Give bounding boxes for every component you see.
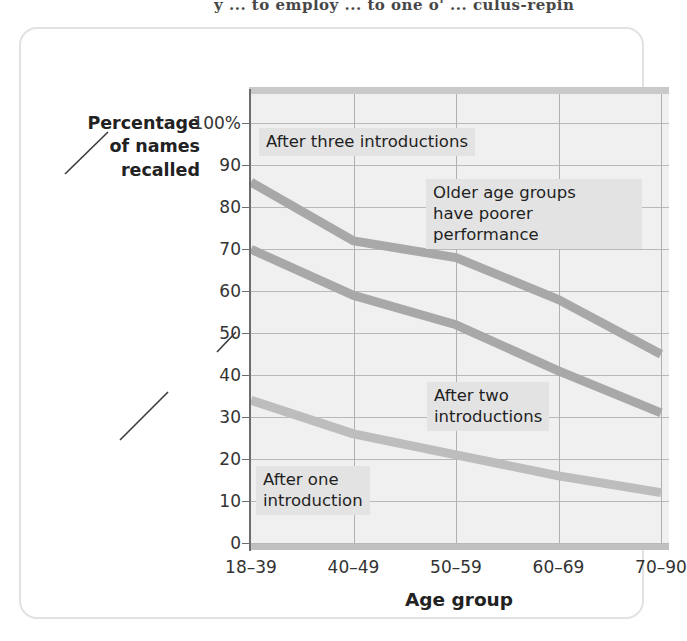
y-axis-tick-label: 70 [219, 239, 241, 259]
annotation-older-age-groups: Older age groups have poorer performance [426, 179, 642, 249]
y-axis-tick-mark [242, 165, 249, 166]
y-axis-tick-mark [242, 417, 249, 418]
annotation-after-two-introductions: After two introductions [427, 382, 549, 431]
y-axis-tick-mark [242, 375, 249, 376]
y-axis-line [249, 89, 251, 551]
y-axis-tick-label: 0 [230, 533, 241, 553]
figure-card: Percentage of names recalled 100%9080706… [19, 27, 644, 619]
annotation-after-one-introduction: After one introduction [256, 466, 370, 515]
y-axis-tick-label: 50 [219, 323, 241, 343]
x-axis-title: Age group [249, 589, 669, 610]
x-axis-tick-label: 50–59 [430, 557, 482, 577]
page-top-cutoff-text: y ... to employ ... to one o' ... culus-… [214, 0, 668, 16]
y-axis-tick-mark [242, 333, 249, 334]
y-axis-tick-mark [242, 249, 249, 250]
annotation-after-three-introductions: After three introductions [259, 128, 475, 156]
x-axis-tick-labels: 18–3940–4950–5960–6970–90 [249, 557, 669, 581]
y-axis-tick-mark [242, 291, 249, 292]
y-axis-tick-labels: 100%9080706050403020100 [161, 87, 241, 550]
y-axis-tick-label: 40 [219, 365, 241, 385]
y-axis-tick-label: 30 [219, 407, 241, 427]
y-axis-tick-label: 80 [219, 197, 241, 217]
y-axis-tick-mark [242, 123, 249, 124]
y-axis-tick-mark [242, 501, 249, 502]
y-axis-tick-label: 20 [219, 449, 241, 469]
x-axis-tick-label: 18–39 [225, 557, 277, 577]
y-axis-tick-mark [242, 207, 249, 208]
y-axis-tick-label: 60 [219, 281, 241, 301]
x-axis-tick-label: 70–90 [635, 557, 687, 577]
y-axis-tick-label: 100% [192, 113, 241, 133]
y-axis-tick-mark [242, 543, 249, 544]
y-axis-tick-label: 10 [219, 491, 241, 511]
y-axis-tick-label: 90 [219, 155, 241, 175]
y-axis-tick-mark [242, 459, 249, 460]
x-axis-tick-label: 40–49 [328, 557, 380, 577]
x-axis-tick-label: 60–69 [533, 557, 585, 577]
